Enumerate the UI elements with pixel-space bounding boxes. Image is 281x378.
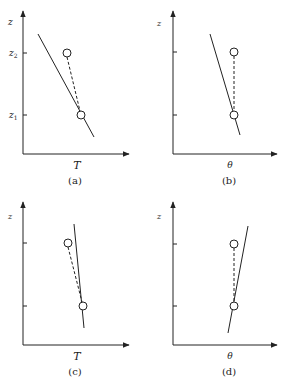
parcel-circle-lower: [230, 111, 238, 119]
panel-a: z z2 z1 T (a): [7, 11, 129, 186]
parcel-path: [68, 247, 82, 302]
parcel-circle-upper: [230, 48, 238, 56]
panel-caption: (d): [222, 366, 236, 377]
parcel-circle-lower: [77, 111, 85, 119]
parcel-circle-lower: [79, 302, 87, 310]
panel-d: z θ (d): [156, 202, 277, 377]
y-axis-label: z: [156, 19, 162, 28]
x-axis-label: θ: [227, 351, 233, 361]
y-axis-label: z: [156, 212, 162, 221]
parcel-path: [67, 57, 80, 111]
panel-b: z θ (b): [156, 11, 277, 186]
panel-caption: (b): [222, 175, 236, 186]
parcel-circle-upper: [230, 240, 238, 248]
parcel-circle-upper: [63, 49, 71, 57]
y-axis-label: z: [7, 17, 13, 27]
x-axis-label: T: [73, 159, 82, 172]
parcel-circle-lower: [230, 302, 238, 310]
figure-canvas: z z2 z1 T (a) z θ (b) z T (c): [0, 0, 281, 378]
profile-line: [74, 224, 84, 328]
y-axis-label: z: [7, 212, 13, 221]
x-axis-label: θ: [227, 160, 233, 170]
panel-c: z T (c): [7, 202, 129, 377]
parcel-circle-upper: [64, 239, 72, 247]
panel-caption: (a): [68, 175, 82, 186]
tick-label-z2: z2: [8, 48, 18, 59]
x-axis-label: T: [73, 350, 82, 363]
tick-label-z1: z1: [8, 110, 18, 121]
panel-caption: (c): [68, 366, 82, 377]
